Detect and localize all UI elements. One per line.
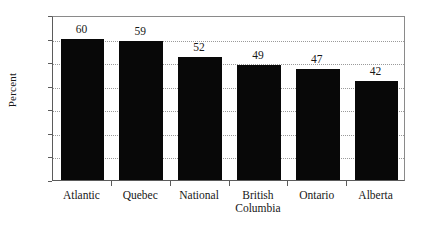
bar	[296, 69, 340, 180]
bar-value-label: 42	[356, 66, 396, 78]
gridline	[53, 158, 404, 159]
x-axis-tick-mark	[287, 181, 288, 186]
bar-value-label: 59	[120, 26, 160, 38]
gridline	[53, 135, 404, 136]
x-axis-tick-mark	[111, 181, 112, 186]
y-axis-tick-mark	[48, 181, 52, 182]
bar-value-label: 47	[297, 54, 337, 66]
x-axis-category-label: Alberta	[336, 189, 416, 202]
plot-area	[52, 16, 405, 181]
gridline	[53, 64, 404, 65]
x-axis-tick-mark	[346, 181, 347, 186]
y-axis-title: Percent	[6, 54, 18, 126]
bar	[119, 41, 163, 180]
gridline	[53, 41, 404, 42]
gridline	[53, 88, 404, 89]
bar-chart: Percent 706050403020100 605952494742 Atl…	[0, 0, 432, 231]
x-axis-category-line: Columbia	[218, 202, 298, 215]
bar	[178, 57, 222, 180]
x-axis-category-line: Alberta	[336, 189, 416, 202]
x-axis-tick-mark	[170, 181, 171, 186]
bar-value-label: 49	[238, 50, 278, 62]
bar	[61, 39, 105, 180]
x-axis-tick-mark	[229, 181, 230, 186]
gridline	[53, 111, 404, 112]
bar	[355, 81, 399, 180]
bar-value-label: 52	[179, 42, 219, 54]
bar-value-label: 60	[61, 24, 101, 36]
bar	[237, 65, 281, 181]
